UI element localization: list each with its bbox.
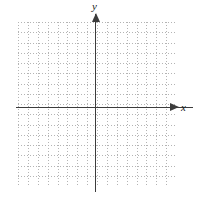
y-axis-label: y [92, 1, 97, 12]
grid-background [18, 22, 176, 186]
coordinate-plane-figure: x y [0, 0, 197, 203]
x-axis-label: x [181, 102, 186, 113]
x-axis-line [16, 107, 193, 108]
y-axis-arrowhead-icon [92, 13, 100, 22]
x-axis-arrowhead-icon [170, 103, 179, 111]
y-axis-line [95, 14, 96, 192]
